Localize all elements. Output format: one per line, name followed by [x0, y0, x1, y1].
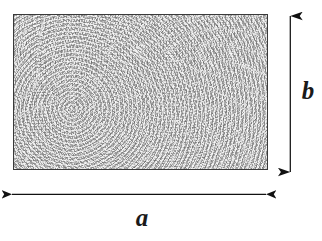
height-dimension-label: b — [296, 78, 320, 103]
rectangle-shape — [13, 14, 268, 170]
width-dimension-label: a — [128, 205, 156, 230]
rectangle-texture-overlay — [14, 15, 267, 169]
geometry-figure: a b — [0, 0, 322, 241]
